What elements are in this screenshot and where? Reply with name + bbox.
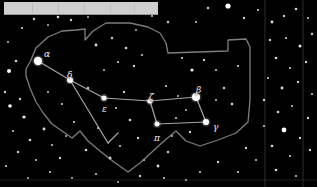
background-star: [291, 105, 293, 107]
background-star: [271, 21, 274, 24]
background-star: [163, 177, 165, 179]
background-star: [305, 61, 307, 63]
background-star: [263, 99, 265, 101]
background-star: [215, 69, 217, 71]
background-star: [65, 135, 67, 137]
background-star: [307, 17, 309, 19]
background-star: [231, 103, 234, 106]
background-star: [141, 54, 143, 56]
background-star: [71, 177, 73, 179]
background-star: [289, 155, 291, 157]
star-alpha[interactable]: [34, 57, 42, 65]
background-star: [151, 15, 153, 17]
background-star: [61, 103, 63, 105]
background-star: [115, 107, 117, 109]
background-star: [297, 81, 299, 83]
background-star: [135, 29, 137, 31]
background-star: [125, 47, 128, 50]
background-star: [283, 15, 285, 17]
background-star: [185, 179, 187, 181]
background-star: [22, 115, 25, 118]
star-delta[interactable]: [67, 77, 73, 83]
background-star: [243, 17, 245, 19]
top-info-bar: [4, 2, 158, 15]
background-star: [285, 37, 287, 39]
background-star: [117, 61, 119, 63]
background-star: [311, 93, 313, 95]
background-star: [263, 125, 265, 127]
background-star: [7, 69, 11, 73]
background-star: [165, 85, 167, 87]
background-star: [307, 117, 309, 119]
background-star: [103, 69, 105, 71]
background-star: [257, 9, 259, 11]
background-star: [33, 18, 35, 20]
background-star: [267, 77, 269, 79]
background-star: [189, 131, 191, 133]
star-epsilon[interactable]: [101, 95, 106, 100]
star-zeta[interactable]: [147, 98, 152, 103]
background-star: [51, 144, 53, 146]
background-star: [299, 45, 302, 48]
background-star: [255, 159, 257, 161]
background-star: [309, 149, 311, 151]
background-star: [49, 171, 51, 173]
background-star: [311, 33, 313, 35]
background-star: [237, 171, 239, 173]
background-star: [190, 68, 193, 71]
background-star: [167, 21, 169, 23]
background-star: [281, 87, 284, 90]
background-star: [119, 145, 121, 147]
background-star: [21, 27, 23, 29]
background-star: [29, 139, 32, 142]
background-star: [5, 165, 7, 167]
background-star: [95, 44, 98, 47]
background-star: [199, 171, 201, 173]
star-beta[interactable]: [192, 93, 200, 101]
background-star: [185, 109, 187, 111]
sky-background: [0, 0, 317, 187]
star-chart-canvas[interactable]: αδεζβγπ: [0, 0, 317, 187]
star-gamma[interactable]: [203, 119, 209, 125]
background-star: [15, 60, 18, 63]
background-star: [43, 128, 46, 131]
background-star: [85, 149, 88, 152]
background-star: [95, 173, 97, 175]
background-star: [245, 147, 247, 149]
background-star: [35, 159, 37, 161]
sky-svg: [0, 0, 317, 187]
background-star: [7, 41, 9, 43]
background-star: [223, 87, 225, 89]
background-star: [133, 65, 135, 67]
background-star: [203, 59, 205, 61]
background-star: [269, 39, 271, 41]
background-star: [139, 175, 141, 177]
background-star: [177, 95, 179, 97]
background-star: [167, 151, 169, 153]
background-star: [137, 137, 139, 139]
background-star: [282, 128, 287, 133]
background-star: [215, 99, 217, 101]
background-star: [47, 24, 49, 26]
background-star: [47, 91, 49, 93]
background-star: [207, 7, 209, 9]
background-star: [59, 157, 61, 159]
background-star: [275, 57, 278, 60]
star-pi[interactable]: [155, 122, 160, 127]
background-star: [70, 19, 72, 21]
background-star: [117, 181, 119, 183]
background-star: [111, 37, 113, 39]
background-star: [295, 8, 298, 11]
background-star: [277, 111, 280, 114]
background-star: [289, 67, 291, 69]
background-star: [4, 91, 6, 93]
background-star: [271, 145, 274, 148]
background-star: [295, 175, 297, 177]
background-star: [175, 117, 177, 119]
background-star: [237, 65, 239, 67]
background-star: [157, 165, 160, 168]
background-star: [8, 104, 12, 108]
background-star: [217, 161, 219, 163]
background-star: [275, 169, 278, 172]
background-star: [57, 16, 60, 19]
